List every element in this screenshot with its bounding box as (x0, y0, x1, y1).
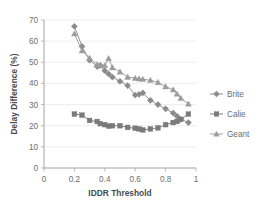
legend-item-brite[interactable]: Brite (210, 90, 244, 99)
data-point-marker-diamond (214, 91, 220, 97)
plot-background (44, 20, 196, 168)
y-axis-tick-label: 30 (29, 101, 39, 110)
y-axis-tick-label: 20 (29, 122, 39, 131)
data-point-marker-square (125, 125, 130, 130)
x-axis-tick-label: 1 (194, 175, 199, 184)
y-axis-tick-label: 60 (29, 37, 39, 46)
legend-label: Geant (227, 130, 250, 139)
data-point-marker-square (178, 117, 183, 122)
data-point-marker-square (98, 121, 103, 126)
data-point-marker-square (214, 112, 219, 117)
x-axis-title: IDDR Threshold (88, 188, 151, 198)
data-point-marker-square (148, 126, 153, 131)
legend-label: Calie (227, 110, 246, 119)
data-point-marker-square (156, 125, 161, 130)
legend-label: Brite (227, 90, 244, 99)
data-point-marker-square (186, 112, 191, 117)
data-point-marker-square (72, 112, 77, 117)
x-axis-tick-label: 0.8 (160, 175, 172, 184)
chart-container: 010203040506070 00.20.40.60.81 BriteCali… (0, 0, 264, 222)
x-axis-tick-label: 0.2 (69, 175, 81, 184)
y-axis: 010203040506070 (29, 16, 44, 173)
legend-item-geant[interactable]: Geant (210, 130, 250, 139)
x-axis: 00.20.40.60.81 (42, 168, 199, 184)
data-point-marker-square (163, 122, 168, 127)
x-axis-tick-label: 0 (42, 175, 47, 184)
x-axis-tick-label: 0.4 (99, 175, 111, 184)
chart-legend: BriteCalieGeant (210, 90, 250, 139)
y-axis-title: Delay Difference (%) (9, 53, 19, 134)
data-point-marker-square (110, 123, 115, 128)
legend-item-calie[interactable]: Calie (210, 110, 246, 119)
data-point-marker-square (140, 128, 145, 133)
y-axis-tick-label: 10 (29, 143, 39, 152)
data-point-marker-square (118, 123, 123, 128)
data-point-marker-square (87, 118, 92, 123)
y-axis-tick-label: 70 (29, 16, 39, 25)
delay-difference-line-chart: 010203040506070 00.20.40.60.81 BriteCali… (0, 0, 264, 222)
data-point-marker-square (80, 113, 85, 118)
y-axis-tick-label: 40 (29, 79, 39, 88)
y-axis-tick-label: 50 (29, 58, 39, 67)
y-axis-tick-label: 0 (33, 164, 38, 173)
x-axis-tick-label: 0.6 (130, 175, 142, 184)
